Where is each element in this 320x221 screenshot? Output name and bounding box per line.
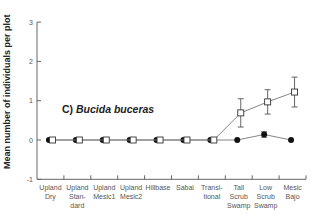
open-square-marker [184,137,190,143]
x-category-label: UplandMesic1 [90,183,118,201]
open-square-marker [265,99,271,105]
y-tick-label: 0 [29,137,33,144]
series-line [49,134,291,140]
open-square-marker [76,137,82,143]
filled-circle-marker [234,137,240,143]
x-category-label: UplandMesic2 [117,183,145,201]
open-square-marker [49,137,55,143]
x-category-label: Sabal [171,183,199,192]
open-square-marker [238,110,244,116]
open-square-marker [157,137,163,143]
x-category-label: MesicBajo [279,183,307,201]
x-category-label: UplandStan-dard [63,183,91,210]
filled-circle-marker [261,131,267,137]
y-axis-label: Mean number of individuals per plot [2,29,14,169]
filled-circle-marker [288,137,294,143]
x-category-label: TallScrubSwamp [225,183,253,210]
y-tick-label: -1 [27,176,33,183]
y-tick-label: 1 [29,97,33,104]
open-square-marker [130,137,136,143]
series-line [52,92,294,140]
panel-prefix: C) [62,103,76,115]
species-name: Bucida buceras [76,103,154,115]
open-square-marker [292,89,298,95]
x-category-label: UplandDry [36,183,64,201]
x-category-label: Transi-tional [198,183,226,201]
y-tick-label: 3 [29,19,33,26]
y-tick-label: 2 [29,58,33,65]
x-category-label: LowScrubSwamp [252,183,280,210]
x-category-label: Hillbase [144,183,172,192]
open-square-marker [211,137,217,143]
open-square-marker [103,137,109,143]
panel-label: C) Bucida buceras [62,103,154,115]
